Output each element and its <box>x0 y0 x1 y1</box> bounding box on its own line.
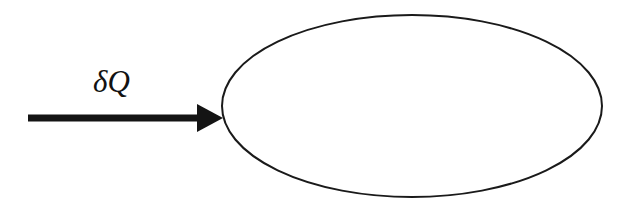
heat-arrow-head <box>197 104 223 132</box>
system-boundary-ellipse <box>222 15 602 197</box>
diagram-canvas: δQ <box>0 0 627 220</box>
heat-transfer-label: δQ <box>93 66 130 97</box>
heat-into-system-diagram <box>0 0 627 220</box>
